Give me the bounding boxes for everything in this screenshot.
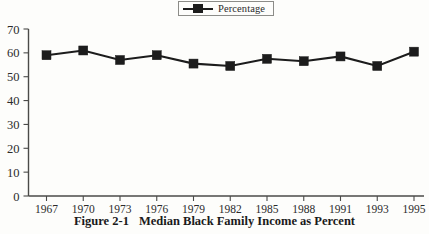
data-point-marker: [116, 56, 125, 65]
y-tick-label: 40: [7, 94, 20, 108]
y-tick-label: 70: [7, 23, 20, 37]
y-tick-label: 20: [7, 142, 20, 156]
y-tick-label: 0: [13, 190, 19, 204]
data-point-marker: [373, 61, 382, 70]
y-tick-label: 50: [7, 70, 20, 84]
y-tick-label: 10: [7, 166, 20, 180]
data-point-marker: [336, 52, 345, 61]
y-tick-label: 30: [7, 118, 20, 132]
y-tick-label: 60: [7, 46, 20, 60]
line-chart-plot: 706050403020100 196719701973197619791982…: [0, 0, 429, 234]
figure-number: Figure 2-1: [74, 214, 129, 228]
figure-caption: Figure 2-1Median Black Family Income as …: [0, 214, 429, 229]
series-markers-percentage: [42, 46, 419, 71]
data-point-marker: [189, 59, 198, 68]
data-point-marker: [410, 47, 419, 56]
data-point-marker: [263, 54, 272, 63]
data-point-marker: [42, 51, 51, 60]
data-point-marker: [152, 51, 161, 60]
figure-title: Median Black Family Income as Percent: [139, 214, 355, 228]
x-axis-ticks: [47, 196, 415, 201]
y-axis-tick-labels: 706050403020100: [7, 23, 20, 204]
data-point-marker: [299, 57, 308, 66]
data-point-marker: [226, 61, 235, 70]
y-axis-ticks: [24, 29, 29, 196]
data-point-marker: [79, 46, 88, 55]
figure-container: Percentage 706050403020100 1967197019731…: [0, 0, 429, 234]
